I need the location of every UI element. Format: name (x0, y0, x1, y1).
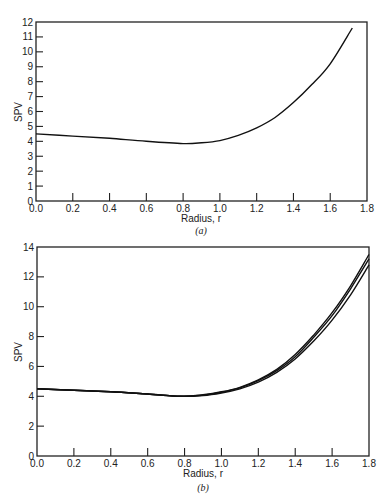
x-tick-label: 0.0 (30, 458, 44, 469)
y-tick-label: 10 (22, 46, 34, 57)
y-tick-label: 5 (27, 121, 33, 132)
figure: 0123456789101112 0.00.20.40.60.81.01.21.… (0, 0, 391, 502)
x-tick-label: 0.4 (104, 458, 118, 469)
y-axis-b: 02468101214 (23, 242, 44, 462)
plot-frame-b (37, 247, 369, 456)
y-tick-label: 3 (27, 151, 33, 162)
y-tick-label: 6 (28, 361, 34, 372)
y-tick-label: 11 (23, 31, 34, 42)
y-tick-label: 12 (23, 271, 35, 282)
y-tick-label: 1 (27, 181, 33, 192)
x-axis-label-b: Radius, r (183, 468, 224, 479)
y-tick-label: 12 (22, 17, 34, 28)
x-axis-a: 0.00.20.40.60.81.01.21.41.61.8 (29, 193, 374, 214)
chart-panel-b: 02468101214 0.00.20.40.60.81.01.21.41.61… (13, 242, 376, 495)
x-tick-label: 1.6 (325, 458, 339, 469)
x-tick-label: 0.6 (139, 203, 153, 214)
y-axis-a: 0123456789101112 (22, 17, 43, 207)
y-tick-label: 8 (27, 76, 33, 87)
chart-panel-a: 0123456789101112 0.00.20.40.60.81.01.21.… (13, 17, 374, 238)
y-axis-label-b: SPV (13, 342, 24, 362)
panel-caption-a: (a) (195, 225, 207, 237)
x-tick-label: 1.2 (251, 458, 265, 469)
x-tick-label: 0.6 (141, 458, 155, 469)
y-tick-label: 4 (28, 391, 34, 402)
x-axis-b: 0.00.20.40.60.81.01.21.41.61.8 (30, 448, 376, 469)
y-tick-label: 14 (23, 242, 35, 253)
x-tick-label: 1.4 (286, 203, 300, 214)
data-line (37, 259, 369, 396)
series-b (37, 255, 369, 397)
x-tick-label: 1.8 (360, 203, 374, 214)
y-tick-label: 2 (28, 421, 34, 432)
series-a (36, 28, 352, 144)
x-tick-label: 1.8 (362, 458, 376, 469)
y-tick-label: 8 (28, 331, 34, 342)
panel-caption-b: (b) (197, 482, 209, 494)
data-line (36, 28, 352, 144)
x-tick-label: 0.2 (67, 458, 81, 469)
y-tick-label: 6 (27, 106, 33, 117)
plot-frame-a (36, 22, 367, 201)
x-tick-label: 1.4 (288, 458, 302, 469)
x-axis-label-a: Radius, r (181, 213, 222, 224)
y-tick-label: 9 (27, 61, 33, 72)
data-line (37, 255, 369, 397)
x-tick-label: 1.6 (323, 203, 337, 214)
y-tick-label: 10 (23, 301, 35, 312)
x-tick-label: 1.2 (250, 203, 264, 214)
y-tick-label: 2 (27, 166, 33, 177)
x-tick-label: 0.2 (66, 203, 80, 214)
y-axis-label-a: SPV (13, 102, 24, 122)
y-tick-label: 7 (27, 91, 33, 102)
x-tick-label: 0.0 (29, 203, 43, 214)
x-tick-label: 0.4 (103, 203, 117, 214)
y-tick-label: 4 (27, 136, 33, 147)
